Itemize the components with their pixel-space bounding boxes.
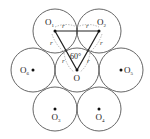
svg-text:r: r — [86, 22, 89, 30]
circle-packing-diagram: r r r r r r 60° O O 1 O 2 O 3 O 4 O 5 O … — [0, 0, 150, 139]
angle-label: 60° — [70, 52, 81, 61]
svg-text:r: r — [100, 39, 103, 47]
svg-text:4: 4 — [102, 118, 105, 123]
label-o: O — [74, 73, 81, 83]
svg-text:r: r — [87, 57, 90, 65]
svg-text:r: r — [50, 39, 53, 47]
svg-text:r: r — [62, 57, 65, 65]
center-dots — [32, 30, 123, 111]
svg-text:6: 6 — [27, 71, 30, 76]
svg-text:5: 5 — [131, 71, 134, 76]
svg-text:2: 2 — [104, 23, 107, 28]
svg-text:r: r — [62, 22, 65, 30]
svg-text:1: 1 — [52, 23, 55, 28]
svg-text:3: 3 — [58, 118, 61, 123]
